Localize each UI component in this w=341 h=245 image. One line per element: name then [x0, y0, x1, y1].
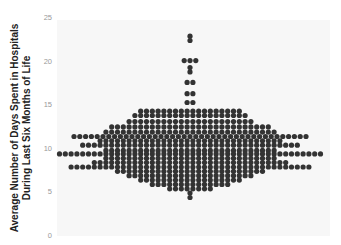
data-point: [185, 80, 190, 85]
data-point: [86, 151, 91, 156]
data-point: [86, 164, 91, 169]
data-point: [156, 130, 161, 135]
data-point: [199, 134, 204, 139]
data-point: [295, 151, 300, 156]
data-point: [303, 134, 308, 139]
data-point: [153, 134, 158, 139]
data-point: [173, 186, 178, 191]
data-point: [193, 134, 198, 139]
data-point: [161, 124, 166, 129]
data-point: [161, 143, 166, 148]
data-point: [219, 182, 224, 187]
data-point: [115, 143, 120, 148]
data-point: [190, 113, 195, 118]
data-point: [243, 130, 248, 135]
data-point: [225, 119, 230, 124]
data-point: [277, 151, 282, 156]
data-point: [187, 195, 192, 200]
data-point: [86, 143, 91, 148]
data-point: [219, 130, 224, 135]
data-point: [115, 124, 120, 129]
data-point: [269, 134, 274, 139]
data-point: [277, 164, 282, 169]
data-point: [150, 113, 155, 118]
data-point: [115, 169, 120, 174]
data-point: [234, 134, 239, 139]
data-point: [144, 124, 149, 129]
data-point: [179, 124, 184, 129]
data-point: [219, 119, 224, 124]
data-point: [225, 143, 230, 148]
data-point: [109, 143, 114, 148]
data-point: [92, 164, 97, 169]
data-point: [103, 130, 108, 135]
data-point: [98, 151, 103, 156]
data-point: [214, 182, 219, 187]
data-point: [260, 130, 265, 135]
data-point: [202, 186, 207, 191]
data-point: [103, 164, 108, 169]
data-point: [187, 69, 192, 74]
data-point: [190, 143, 195, 148]
data-point: [69, 164, 74, 169]
data-point: [272, 143, 277, 148]
data-point: [190, 80, 195, 85]
data-point: [187, 38, 192, 43]
data-point: [167, 124, 172, 129]
beeswarm-dots: [0, 0, 341, 245]
data-point: [144, 130, 149, 135]
data-point: [80, 164, 85, 169]
data-point: [260, 124, 265, 129]
data-point: [132, 119, 137, 124]
data-point: [208, 113, 213, 118]
data-point: [173, 113, 178, 118]
data-point: [112, 134, 117, 139]
data-point: [121, 124, 126, 129]
data-point: [289, 151, 294, 156]
data-point: [158, 134, 163, 139]
data-point: [214, 113, 219, 118]
data-point: [127, 124, 132, 129]
data-point: [277, 143, 282, 148]
data-point: [150, 119, 155, 124]
data-point: [251, 134, 256, 139]
data-point: [231, 130, 236, 135]
data-point: [211, 134, 216, 139]
data-point: [150, 130, 155, 135]
data-point: [248, 130, 253, 135]
data-point: [185, 143, 190, 148]
data-point: [182, 58, 187, 63]
data-point: [124, 134, 129, 139]
data-point: [245, 134, 250, 139]
data-point: [135, 134, 140, 139]
data-point: [190, 186, 195, 191]
data-point: [190, 119, 195, 124]
data-point: [196, 186, 201, 191]
data-point: [118, 134, 123, 139]
data-point: [109, 130, 114, 135]
data-point: [254, 124, 259, 129]
data-point: [237, 178, 242, 183]
data-point: [170, 134, 175, 139]
data-point: [161, 130, 166, 135]
data-point: [74, 164, 79, 169]
data-point: [202, 113, 207, 118]
data-point: [144, 113, 149, 118]
data-point: [208, 119, 213, 124]
data-point: [179, 113, 184, 118]
data-point: [272, 164, 277, 169]
data-point: [263, 134, 268, 139]
data-point: [161, 113, 166, 118]
data-point: [237, 143, 242, 148]
data-point: [243, 119, 248, 124]
data-point: [237, 113, 242, 118]
data-point: [167, 113, 172, 118]
data-point: [74, 151, 79, 156]
data-point: [127, 173, 132, 178]
data-point: [228, 134, 233, 139]
data-point: [185, 186, 190, 191]
data-point: [272, 130, 277, 135]
data-point: [57, 151, 62, 156]
data-point: [185, 100, 190, 105]
data-point: [71, 134, 76, 139]
